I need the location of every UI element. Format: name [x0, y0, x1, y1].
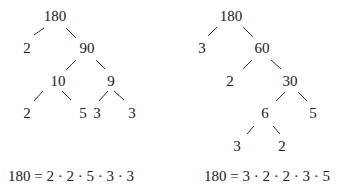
- tree-node: 3: [233, 139, 241, 154]
- tree-node: 5: [79, 106, 87, 121]
- tree-edge: [34, 28, 44, 35]
- left-equation: 180 = 2 · 2 · 5 · 3 · 3: [8, 169, 134, 184]
- tree-edge: [99, 91, 108, 101]
- tree-node: 3: [93, 106, 101, 121]
- tree-node: 2: [278, 139, 286, 154]
- tree-node: 60: [255, 41, 270, 56]
- tree-node: 6: [261, 106, 269, 121]
- tree-node: 2: [23, 106, 31, 121]
- tree-edge: [66, 60, 76, 70]
- tree-edge: [114, 91, 124, 100]
- tree-edge: [208, 27, 217, 36]
- tree-node: 5: [309, 106, 317, 121]
- tree-edge: [66, 28, 76, 38]
- tree-edge: [273, 126, 280, 134]
- tree-edge: [34, 91, 43, 101]
- tree-node: 2: [23, 41, 31, 56]
- tree-node: 90: [80, 41, 95, 56]
- tree-node: 9: [107, 74, 115, 89]
- tree-edge: [96, 60, 105, 69]
- tree-node: 10: [51, 74, 66, 89]
- tree-edge: [276, 92, 285, 101]
- tree-edge: [247, 126, 254, 134]
- tree-node: 3: [128, 106, 136, 121]
- tree-edge: [243, 27, 253, 37]
- tree-edge: [62, 91, 71, 100]
- tree-node: 180: [44, 9, 67, 24]
- tree-edge: [243, 60, 252, 69]
- tree-edges: [0, 0, 341, 185]
- tree-node: 2: [226, 74, 234, 89]
- tree-node: 3: [198, 41, 206, 56]
- right-equation: 180 = 3 · 2 · 2 · 3 · 5: [204, 169, 330, 184]
- tree-node: 180: [220, 9, 243, 24]
- tree-edge: [271, 60, 281, 69]
- tree-node: 30: [283, 74, 298, 89]
- tree-edge: [298, 92, 307, 101]
